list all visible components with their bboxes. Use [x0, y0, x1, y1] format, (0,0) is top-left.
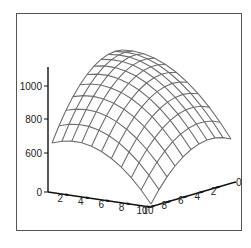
z-tick-label: 600: [25, 148, 42, 159]
wireframe-surface: [52, 50, 231, 204]
z-tick-label: 0: [36, 187, 42, 198]
x-tick-label: 4: [78, 196, 84, 207]
z-tick-label: 800: [25, 114, 42, 125]
axes: [44, 67, 236, 207]
surface-plot: 060080010002468100246810: [0, 0, 251, 248]
y-tick-label: 8: [162, 200, 168, 211]
y-tick-label: 4: [194, 191, 200, 202]
y-tick-label: 0: [236, 177, 242, 188]
x-tick-label: 8: [119, 202, 125, 213]
x-tick-label: 2: [58, 193, 64, 204]
y-tick-label: 10: [142, 205, 154, 216]
z-tick-label: 1000: [20, 81, 43, 92]
y-tick-label: 6: [178, 195, 184, 206]
x-tick-label: 6: [98, 199, 104, 210]
y-tick-label: 2: [211, 186, 217, 197]
